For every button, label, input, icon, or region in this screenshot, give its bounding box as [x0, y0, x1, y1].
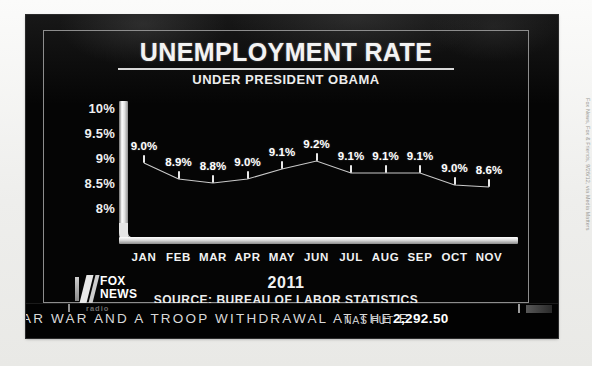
- page-background: Fox News, Fox & Friends, 9/26/12, via Me…: [0, 0, 592, 366]
- data-point-label: 9.0%: [131, 140, 158, 152]
- data-point-marker: [454, 177, 456, 185]
- data-point-label: 9.1%: [372, 150, 399, 162]
- logo-bar-icon: [75, 277, 79, 301]
- data-point-marker: [350, 165, 352, 173]
- photo-credit: Fox News, Fox & Friends, 9/26/12, via Me…: [585, 98, 591, 228]
- lower-third-graphic: UNEMPLOYMENT RATE UNDER PRESIDENT OBAMA …: [43, 30, 529, 303]
- x-axis-label: JAN: [132, 251, 157, 263]
- data-point-label: 8.8%: [200, 160, 227, 172]
- y-axis-bar: [119, 101, 128, 237]
- data-point-label: 8.6%: [476, 164, 503, 176]
- data-point-marker: [316, 153, 318, 161]
- data-point-marker: [247, 171, 249, 179]
- data-point-marker: [143, 155, 145, 163]
- data-point-label: 9.1%: [407, 150, 434, 162]
- logo-news-text: NEWS: [100, 288, 137, 301]
- page-title: UNEMPLOYMENT RATE: [44, 38, 528, 67]
- news-ticker: radio AR WAR AND A TROOP WITHDRAWAL AT T…: [26, 303, 558, 338]
- ticker-chip: [526, 305, 552, 313]
- data-point-label: 9.1%: [338, 150, 365, 162]
- x-axis-label: JUL: [339, 251, 363, 263]
- y-axis-label: 9%: [35, 151, 115, 166]
- data-point-marker: [281, 161, 283, 169]
- data-point-label: 9.1%: [269, 146, 296, 158]
- data-point-marker: [385, 165, 387, 173]
- ticker-tick-mark: [518, 304, 520, 313]
- data-point-marker: [212, 175, 214, 183]
- data-point-marker: [488, 179, 490, 187]
- y-axis-label: 8.5%: [35, 176, 115, 191]
- page-subtitle: UNDER PRESIDENT OBAMA: [44, 72, 528, 87]
- ticker-symbol: NAS FUT: [344, 314, 394, 326]
- x-axis-label: FEB: [166, 251, 191, 263]
- y-axis-label: 8%: [35, 201, 115, 216]
- x-axis-bar: [119, 237, 518, 244]
- x-axis-label: OCT: [441, 251, 467, 263]
- x-axis-label: AUG: [372, 251, 399, 263]
- x-axis-label: SEP: [408, 251, 433, 263]
- x-axis-label: APR: [234, 251, 260, 263]
- y-axis-label: 10%: [35, 101, 115, 116]
- data-point-marker: [419, 165, 421, 173]
- data-point-label: 9.0%: [234, 156, 261, 168]
- chart-plot-area: 10%9.5%9%8.5%8%9.0%JAN8.9%FEB8.8%MAR9.0%…: [44, 99, 530, 259]
- ticker-value: 2,292.50: [393, 311, 449, 326]
- x-axis-label: NOV: [476, 251, 503, 263]
- x-axis-label: JUN: [304, 251, 329, 263]
- y-axis-label: 9.5%: [35, 126, 115, 141]
- data-point-label: 9.0%: [441, 162, 468, 174]
- data-point-label: 9.2%: [303, 138, 330, 150]
- title-underline: [118, 68, 454, 70]
- series-line: [44, 99, 530, 259]
- x-axis-label: MAY: [269, 251, 295, 263]
- tv-screenshot: UNEMPLOYMENT RATE UNDER PRESIDENT OBAMA …: [26, 15, 558, 338]
- x-axis-label: MAR: [199, 251, 227, 263]
- data-point-label: 8.9%: [165, 156, 192, 168]
- data-point-marker: [178, 171, 180, 179]
